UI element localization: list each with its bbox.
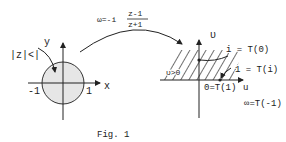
v-axis-label: υ — [210, 30, 216, 41]
w-plane: υ u υ>0 i = T(0) 1 = T(i) 0=T(1) ∞=T(-1) — [160, 30, 282, 118]
formula-numerator: z-1 — [128, 9, 143, 18]
label-i-T0: i = T(0) — [226, 45, 269, 55]
formula-lhs: ω=-i — [97, 15, 116, 24]
tick-neg-one: -1 — [28, 86, 40, 97]
label-one-Ti: 1 = T(i) — [235, 65, 278, 75]
mapping-arrow — [80, 30, 182, 52]
point-one — [218, 78, 221, 81]
u-axis-label: u — [243, 83, 248, 93]
formula-denominator: z+1 — [128, 20, 143, 29]
label-inf-Tneg1: ∞=T(-1) — [244, 99, 282, 109]
conformal-map-diagram: x y -1 1 |z|<| ω=-i z-1 z+1 υ u υ>0 i = … — [0, 0, 286, 142]
region-label-z: |z|<| — [10, 50, 40, 61]
y-axis-label: y — [44, 37, 50, 48]
mapping: ω=-i z-1 z+1 — [80, 9, 182, 52]
x-axis-label: x — [104, 81, 110, 92]
z-plane: x y -1 1 |z|<| — [10, 37, 110, 120]
figure-caption: Fig. 1 — [97, 130, 129, 140]
region-label-w: υ>0 — [166, 68, 181, 77]
tick-pos-one: 1 — [86, 86, 92, 97]
label-zero-T1: 0=T(1) — [204, 83, 236, 93]
